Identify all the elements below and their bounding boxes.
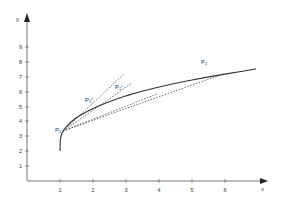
x-tick-label: 2 bbox=[91, 187, 94, 193]
x-tick-label: 6 bbox=[223, 187, 226, 193]
y-tick-label: 6 bbox=[19, 89, 22, 95]
point-label-p1: P₁ bbox=[55, 127, 61, 133]
x-tick-label: 1 bbox=[58, 187, 61, 193]
y-tick-label: 1 bbox=[19, 163, 22, 169]
y-tick-label: 7 bbox=[19, 74, 22, 80]
point-label-p2-prime: P₂ʹ bbox=[115, 84, 122, 90]
x-tick-label: 5 bbox=[190, 187, 193, 193]
tangent-line bbox=[63, 74, 124, 131]
function-curve bbox=[60, 69, 256, 151]
y-tick-label: 4 bbox=[19, 118, 22, 124]
secant-tangent-diagram: x y 1 2 3 4 5 6 1 2 3 4 5 6 7 8 9 bbox=[0, 0, 283, 207]
y-tick-label: 8 bbox=[19, 59, 22, 65]
y-axis-arrow-icon bbox=[24, 13, 30, 22]
secant-p1-p2dblprime bbox=[63, 83, 132, 131]
y-axis-label: y bbox=[16, 16, 19, 22]
x-tick-label: 4 bbox=[157, 187, 160, 193]
x-tick-label: 3 bbox=[124, 187, 127, 193]
y-tick-label: 3 bbox=[19, 133, 22, 139]
point-label-p2-doubleprime: P₂ʺ bbox=[85, 97, 93, 103]
y-tick-label: 9 bbox=[19, 44, 22, 50]
y-tick-label: 2 bbox=[19, 148, 22, 154]
diagram-canvas: x y 1 2 3 4 5 6 1 2 3 4 5 6 7 8 9 bbox=[0, 0, 283, 207]
x-axis-label: x bbox=[261, 186, 264, 192]
point-label-p2: P₂ bbox=[201, 59, 208, 65]
y-tick-label: 5 bbox=[19, 104, 22, 110]
x-axis-arrow-icon bbox=[260, 178, 268, 184]
secant-p1-p2prime bbox=[63, 94, 157, 131]
